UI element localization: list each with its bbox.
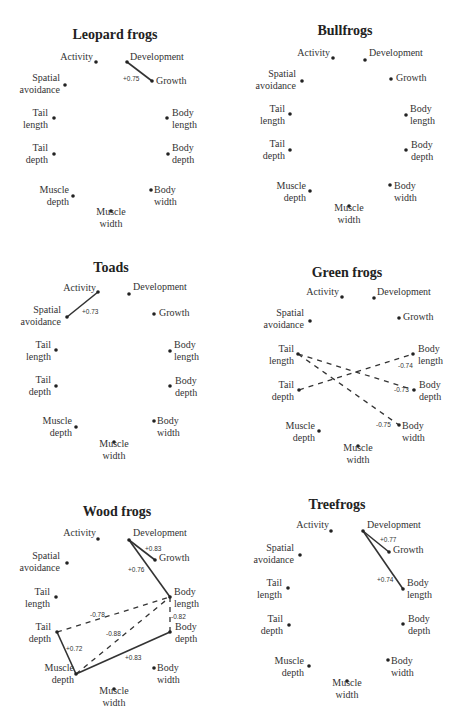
node-label-growth: Growth xyxy=(159,552,190,564)
panel-green-frogs: Green frogs Activity Development Growth … xyxy=(230,240,460,480)
node-label-body-length: Bodylength xyxy=(407,577,432,601)
node-label-growth: Growth xyxy=(403,311,434,323)
node-label-body-width: Bodywidth xyxy=(157,662,180,686)
node-label-body-depth: Bodydepth xyxy=(172,142,194,166)
correlation-value: -0.74 xyxy=(398,362,413,369)
node-label-spatial-avoidance: Spatialavoidance xyxy=(20,304,61,328)
node-label-tail-length: Taillength xyxy=(23,107,48,131)
node-label-tail-length: Taillength xyxy=(25,586,50,610)
node-label-tail-depth: Taildepth xyxy=(29,621,51,645)
node-label-development: Development xyxy=(133,527,187,539)
node-label-muscle-width: Musclewidth xyxy=(329,202,369,226)
node-label-muscle-depth: Muscledepth xyxy=(275,655,304,679)
panel-toads: Toads Activity Development Growth Bodyle… xyxy=(0,240,230,480)
node-label-body-length: Bodylength xyxy=(174,586,199,610)
node-label-growth: Growth xyxy=(159,307,190,319)
node-label-muscle-depth: Muscledepth xyxy=(40,184,69,208)
correlation-value: +0.83 xyxy=(145,545,161,552)
node-label-body-width: Bodywidth xyxy=(391,655,414,679)
panel-treefrogs: Treefrogs Activity Development Growth Bo… xyxy=(230,480,460,720)
node-label-growth: Growth xyxy=(396,72,427,84)
node-label-body-width: Bodywidth xyxy=(157,415,180,439)
correlation-value: -0.82 xyxy=(171,613,186,620)
node-label-development: Development xyxy=(369,47,423,59)
correlation-value: +0.72 xyxy=(66,645,82,652)
node-label-muscle-width: Musclewidth xyxy=(338,442,378,466)
node-label-body-depth: Bodydepth xyxy=(175,621,197,645)
node-label-activity: Activity xyxy=(296,519,329,531)
node-label-tail-length: Taillength xyxy=(260,103,285,127)
node-label-body-depth: Bodydepth xyxy=(411,139,433,163)
node-label-tail-depth: Taildepth xyxy=(261,613,283,637)
panel-leopard-frogs: Leopard frogs Activity Development Growt… xyxy=(0,0,230,240)
correlation-value: -0.73 xyxy=(394,386,409,393)
node-label-tail-depth: Taildepth xyxy=(29,374,51,398)
node-label-activity: Activity xyxy=(63,282,96,294)
node-label-muscle-depth: Muscledepth xyxy=(286,420,315,444)
node-label-body-depth: Bodydepth xyxy=(408,613,430,637)
node-label-spatial-avoidance: Spatialavoidance xyxy=(19,550,60,574)
node-label-development: Development xyxy=(377,286,431,298)
node-label-muscle-width: Musclewidth xyxy=(94,438,134,462)
panel-bullfrogs: Bullfrogs Activity Development Growth Bo… xyxy=(230,0,460,240)
nodes xyxy=(52,60,170,213)
correlation-value: +0.76 xyxy=(128,566,144,573)
node-label-muscle-width: Musclewidth xyxy=(94,685,134,709)
node-label-development: Development xyxy=(133,281,187,293)
node-label-tail-depth: Taildepth xyxy=(272,379,294,403)
node-label-muscle-width: Musclewidth xyxy=(91,206,131,230)
node-label-growth: Growth xyxy=(156,75,187,87)
node-label-activity: Activity xyxy=(63,527,96,539)
correlation-value: +0.77 xyxy=(380,536,396,543)
node-label-spatial-avoidance: Spatialavoidance xyxy=(263,307,304,331)
node-label-body-depth: Bodydepth xyxy=(175,375,197,399)
node-label-body-length: Bodylength xyxy=(172,107,197,131)
solid-edges xyxy=(57,540,170,674)
node-label-muscle-depth: Muscledepth xyxy=(277,180,306,204)
node-label-spatial-avoidance: Spatialavoidance xyxy=(19,72,60,96)
node-label-body-width: Bodywidth xyxy=(402,420,425,444)
panel-wood-frogs: Wood frogs Activity Development Growth B… xyxy=(0,480,230,720)
node-label-activity: Activity xyxy=(297,47,330,59)
correlation-value: -0.75 xyxy=(376,421,391,428)
correlation-value: +0.74 xyxy=(377,576,393,583)
node-label-body-length: Bodylength xyxy=(410,103,435,127)
node-label-body-width: Bodywidth xyxy=(154,184,177,208)
node-label-development: Development xyxy=(367,519,421,531)
node-label-spatial-avoidance: Spatialavoidance xyxy=(255,68,296,92)
node-label-development: Development xyxy=(130,51,184,63)
node-label-activity: Activity xyxy=(60,51,93,63)
node-label-tail-depth: Taildepth xyxy=(26,142,48,166)
node-label-tail-depth: Taildepth xyxy=(263,138,285,162)
node-label-body-length: Bodylength xyxy=(174,339,199,363)
node-label-tail-length: Taillength xyxy=(269,343,294,367)
node-label-tail-length: Taillength xyxy=(257,577,282,601)
node-label-muscle-depth: Muscledepth xyxy=(43,415,72,439)
node-label-body-length: Bodylength xyxy=(418,343,443,367)
nodes xyxy=(288,56,408,208)
node-label-muscle-depth: Muscledepth xyxy=(45,662,74,686)
node-label-activity: Activity xyxy=(306,286,339,298)
node-label-body-width: Bodywidth xyxy=(394,180,417,204)
node-label-growth: Growth xyxy=(393,544,424,556)
correlation-value: +0.83 xyxy=(125,654,141,661)
node-label-spatial-avoidance: Spatialavoidance xyxy=(253,542,294,566)
node-label-body-depth: Bodydepth xyxy=(419,379,441,403)
correlation-value: +0.75 xyxy=(123,75,139,82)
node-label-tail-length: Taillength xyxy=(26,339,51,363)
node-label-muscle-width: Musclewidth xyxy=(327,677,367,701)
correlation-value: +0.73 xyxy=(82,308,98,315)
correlation-value: -0.78 xyxy=(90,611,105,618)
correlation-value: -0.88 xyxy=(106,630,121,637)
